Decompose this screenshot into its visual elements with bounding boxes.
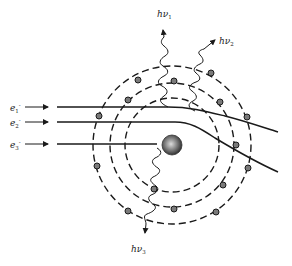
bremsstrahlung-diagram: e1- e2- e3- hν1 hν2 hν3 (0, 0, 292, 266)
orbital-electron (171, 78, 177, 84)
label-hv3: hν3 (131, 244, 146, 255)
orbital-electron (217, 99, 223, 105)
orbital-electron (245, 165, 251, 171)
photon-wave-1 (158, 30, 168, 107)
label-e2: e2- (10, 117, 21, 129)
orbital-electron (125, 97, 131, 103)
nucleus (162, 135, 182, 155)
label-hv2: hν2 (219, 36, 234, 47)
label-e3: e3- (10, 139, 21, 151)
incoming-arrows (25, 107, 48, 144)
orbital-electron (244, 114, 250, 120)
orbital-electron (151, 186, 157, 192)
orbital-electron (171, 206, 177, 212)
label-hv1: hν1 (157, 9, 172, 20)
orbital-electron (208, 70, 214, 76)
orbital-electron (125, 208, 131, 214)
orbital-electron (94, 163, 100, 169)
orbital-electron (233, 142, 239, 148)
label-e1: e1- (10, 102, 21, 114)
orbital-electron (220, 182, 226, 188)
orbital-electron (135, 77, 141, 83)
orbital-electron (96, 113, 102, 119)
orbital-electron (213, 209, 219, 215)
